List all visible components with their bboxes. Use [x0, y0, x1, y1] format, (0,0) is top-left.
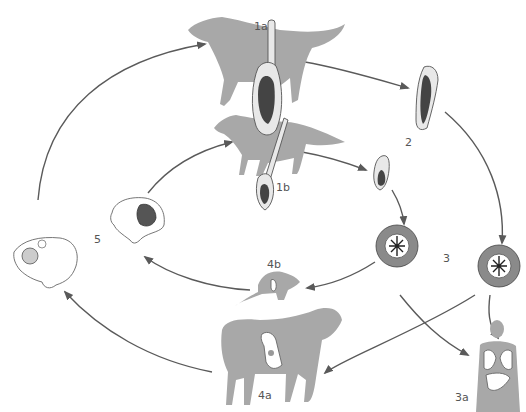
- egg-inner: [376, 225, 418, 267]
- label-1b: 1b: [276, 181, 290, 194]
- arrow-egg-to-sheep: [325, 295, 475, 373]
- brain-organ: [111, 198, 165, 243]
- arrow-egg2-to-human: [400, 295, 468, 355]
- label-1a: 1a: [254, 20, 268, 33]
- arrow-sheep-to-liver: [65, 292, 212, 372]
- sheep-silhouette: [221, 308, 342, 405]
- echinococcus-life-cycle-diagram: 1a 1b 2 3 3a 4a 4b 5: [0, 0, 526, 412]
- arrow-fox-to-proglottid: [302, 152, 366, 170]
- label-4b: 4b: [267, 258, 281, 271]
- egg-outer: [478, 245, 520, 287]
- arrow-liver-to-dog: [38, 44, 205, 200]
- label-3a: 3a: [455, 391, 469, 404]
- label-5: 5: [94, 233, 101, 246]
- arrow-egg-to-rodent: [307, 262, 375, 288]
- arrow-proglottid-to-egg: [445, 112, 502, 243]
- arrow-dog-to-proglottid: [305, 62, 408, 88]
- human-silhouette: [476, 320, 520, 412]
- arrow-proglottid-to-egg-inner: [392, 190, 404, 224]
- arrow-brain-to-fox: [148, 142, 232, 193]
- proglottid-small: [374, 156, 389, 190]
- liver-organ: [14, 238, 77, 288]
- label-2: 2: [405, 136, 412, 149]
- arrow-rodent-to-brain: [145, 257, 250, 290]
- proglottid-large: [416, 66, 438, 129]
- rodent-silhouette: [235, 272, 300, 306]
- label-4a: 4a: [258, 389, 272, 402]
- label-3: 3: [443, 252, 450, 265]
